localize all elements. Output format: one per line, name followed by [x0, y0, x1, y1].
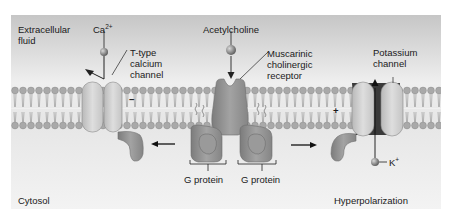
negative-charge: − — [129, 94, 135, 105]
g-protein-right — [238, 125, 276, 171]
hyperpolarization-label: Hyperpolarization — [334, 195, 408, 206]
muscarinic-signaling-diagram: − + — [0, 0, 454, 224]
acetylcholine-label: Acetylcholine — [203, 24, 259, 35]
g-protein-right-label: G protein — [241, 174, 280, 185]
cytosol-label: Cytosol — [18, 195, 50, 206]
g-protein-left — [190, 125, 226, 171]
positive-charge: + — [333, 105, 339, 116]
g-protein-left-label: G protein — [184, 174, 223, 185]
